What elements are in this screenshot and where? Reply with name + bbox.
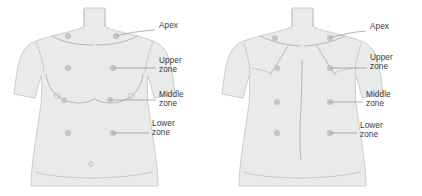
label-posterior-apex: Apex [370,22,389,31]
anterior-chest-figure [14,8,175,186]
anterior-torso-outline [14,8,175,186]
marker-anterior-middle-left [61,97,67,103]
marker-anterior-upper-left [65,65,71,71]
marker-anterior-lower-left [65,130,71,136]
label-anterior-apex: Apex [159,21,178,30]
posterior-chest-figure [222,8,383,186]
label-anterior-lower-zone: Lower zone [152,119,175,138]
marker-posterior-lower-left [274,130,280,136]
label-anterior-upper-zone: Upper zone [159,56,182,75]
diagram-canvas [0,0,422,196]
marker-posterior-middle-left [274,99,280,105]
marker-posterior-upper-left [274,65,280,71]
label-posterior-lower-zone: Lower zone [360,121,383,140]
chest-zones-diagram: Apex Upper zone Middle zone Lower zone A… [0,0,422,196]
label-anterior-middle-zone: Middle zone [159,90,184,109]
posterior-torso-outline [222,8,383,186]
label-posterior-upper-zone: Upper zone [370,53,393,72]
label-posterior-middle-zone: Middle zone [366,90,391,109]
marker-posterior-apex-left [272,35,278,41]
marker-anterior-apex-left [65,33,71,39]
